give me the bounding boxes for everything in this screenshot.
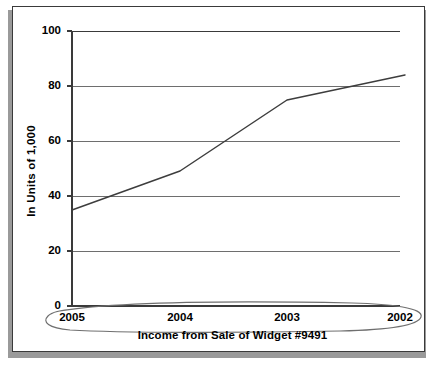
x-tick-label-2005: 2005 [49, 311, 95, 323]
x-tick-label-2003: 2003 [264, 311, 310, 323]
y-tick-label-40: 40 [33, 189, 61, 201]
y-tick-label-20: 20 [33, 244, 61, 256]
x-axis-title: Income from Sale of Widget #9491 [60, 329, 405, 341]
chart-figure: In Units of 1,000 100 80 60 40 20 0 2005… [0, 0, 432, 369]
x-tick-label-2002: 2002 [377, 311, 423, 323]
y-tick-label-100: 100 [33, 24, 61, 36]
chart-card [12, 6, 425, 352]
x-tick-label-2004: 2004 [157, 311, 203, 323]
y-tick-label-60: 60 [33, 134, 61, 146]
y-tick-label-0: 0 [33, 299, 61, 311]
y-tick-label-80: 80 [33, 79, 61, 91]
y-axis-title: In Units of 1,000 [20, 96, 42, 246]
